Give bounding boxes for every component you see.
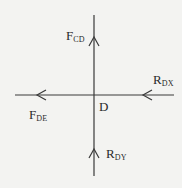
force-symbol: R <box>106 146 115 161</box>
force-subscript: DX <box>162 79 174 88</box>
force-subscript: DY <box>115 153 127 162</box>
force-label-rdy: RDY <box>106 147 127 160</box>
force-label-fcd: FCD <box>66 29 85 42</box>
force-subscript: CD <box>73 35 85 44</box>
joint-label: D <box>99 100 108 113</box>
force-label-rdx: RDX <box>153 73 174 86</box>
fbd-canvas <box>0 0 182 188</box>
force-subscript: DE <box>36 114 47 123</box>
force-label-fde: FDE <box>29 108 47 121</box>
force-symbol: R <box>153 72 162 87</box>
